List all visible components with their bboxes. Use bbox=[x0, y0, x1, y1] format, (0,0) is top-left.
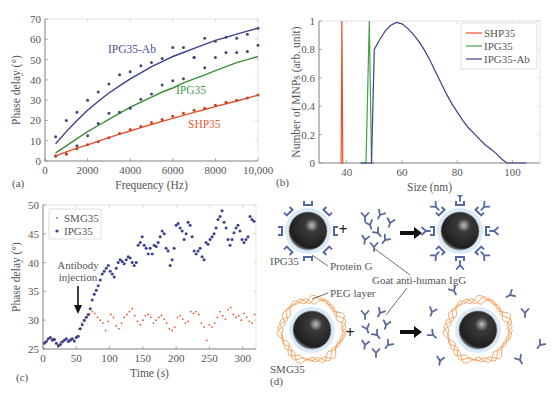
y-tick-label: 0.6 bbox=[301, 72, 315, 84]
antibody-icon bbox=[362, 213, 369, 221]
data-point bbox=[224, 318, 226, 320]
data-point bbox=[241, 238, 244, 241]
data-point bbox=[163, 318, 165, 320]
antibody-icon bbox=[436, 356, 444, 365]
data-point bbox=[149, 247, 152, 250]
x-tick-label: 0 bbox=[42, 164, 48, 176]
data-point bbox=[246, 97, 249, 100]
data-point bbox=[94, 312, 96, 314]
data-point bbox=[193, 109, 196, 112]
antibody-icon bbox=[535, 340, 546, 351]
data-point bbox=[115, 325, 117, 327]
legend: SHP35IPG35IPG35-Ab bbox=[461, 23, 537, 69]
data-point bbox=[225, 227, 228, 230]
data-point bbox=[223, 221, 226, 224]
data-point bbox=[141, 235, 144, 238]
data-point bbox=[107, 264, 110, 267]
panel-b-size-distribution-chart: 40608010000.20.40.60.81Size (nm)Number o… bbox=[270, 0, 554, 200]
data-point bbox=[171, 79, 174, 82]
data-point bbox=[219, 215, 222, 218]
data-point bbox=[159, 235, 162, 238]
data-point bbox=[115, 267, 118, 270]
protein-g-icon bbox=[284, 247, 292, 255]
data-point bbox=[81, 323, 84, 326]
data-point bbox=[123, 316, 125, 318]
data-point bbox=[135, 261, 138, 264]
data-point bbox=[103, 270, 106, 273]
data-point bbox=[201, 255, 204, 258]
data-point bbox=[193, 250, 196, 253]
data-point bbox=[89, 307, 92, 310]
data-point bbox=[213, 232, 216, 235]
data-point bbox=[187, 221, 190, 224]
data-point bbox=[111, 273, 114, 276]
data-point bbox=[233, 231, 236, 234]
data-point bbox=[79, 327, 82, 330]
antibody-icon bbox=[365, 220, 374, 230]
bound-antibody-icon bbox=[479, 202, 490, 213]
antibody-icon bbox=[386, 218, 395, 228]
data-point bbox=[246, 50, 249, 53]
data-point bbox=[49, 336, 52, 339]
antibody-icon bbox=[373, 349, 380, 357]
data-point bbox=[145, 315, 147, 317]
data-point bbox=[206, 339, 208, 341]
data-point bbox=[203, 258, 206, 261]
data-point bbox=[118, 328, 120, 330]
x-tick-label: 60 bbox=[396, 166, 408, 178]
panel-c-time-chart: 050100150200250300253035404550Time (s)Ph… bbox=[0, 195, 280, 401]
protein-g-icon bbox=[324, 207, 332, 215]
data-point bbox=[139, 241, 142, 244]
data-point bbox=[247, 235, 250, 238]
data-point bbox=[181, 229, 184, 232]
data-point bbox=[137, 244, 140, 247]
data-point bbox=[126, 314, 128, 316]
panel-label: (b) bbox=[276, 176, 289, 189]
label-smg35: SMG35 bbox=[270, 363, 305, 375]
data-point bbox=[65, 337, 68, 340]
y-tick-label: 0 bbox=[36, 155, 42, 167]
data-point bbox=[139, 98, 142, 101]
data-point bbox=[85, 316, 88, 319]
data-point bbox=[113, 276, 116, 279]
data-point bbox=[123, 262, 126, 265]
data-point bbox=[231, 238, 234, 241]
data-point bbox=[189, 224, 192, 227]
data-point bbox=[131, 308, 133, 310]
smg35-particle bbox=[289, 307, 335, 353]
panel-label: (c) bbox=[16, 371, 29, 384]
legend: SMG35IPG35 bbox=[49, 209, 101, 239]
data-point bbox=[143, 244, 146, 247]
data-point bbox=[102, 322, 104, 324]
data-point bbox=[165, 247, 168, 250]
data-point bbox=[214, 104, 217, 107]
y-tick-label: 45 bbox=[28, 228, 40, 240]
data-point bbox=[197, 250, 200, 253]
x-tick-label: 0 bbox=[40, 352, 46, 364]
antibody-icon bbox=[361, 235, 369, 244]
data-point bbox=[107, 136, 110, 139]
panel-a-frequency-chart: 0200040006000800010,000010203040506070Fr… bbox=[0, 0, 280, 200]
data-point bbox=[121, 322, 123, 324]
data-point bbox=[185, 322, 187, 324]
data-point bbox=[177, 316, 179, 318]
smg35-particle-result bbox=[455, 307, 501, 353]
bound-antibody-icon bbox=[457, 195, 464, 201]
label-shp35: SHP35 bbox=[188, 118, 221, 130]
x-tick-label: 4000 bbox=[119, 164, 142, 176]
data-point bbox=[86, 143, 89, 146]
label-peg-layer: PEG layer bbox=[330, 287, 376, 299]
legend-label: IPG35 bbox=[484, 40, 513, 52]
data-point bbox=[209, 238, 212, 241]
y-tick-label: 35 bbox=[28, 285, 40, 297]
data-point bbox=[187, 320, 189, 322]
data-point bbox=[105, 330, 107, 332]
data-point bbox=[185, 232, 188, 235]
data-point bbox=[161, 118, 164, 121]
legend-label: IPG35-Ab bbox=[484, 53, 530, 65]
data-point bbox=[182, 77, 185, 80]
plus-sign: + bbox=[345, 324, 354, 341]
data-point bbox=[182, 46, 185, 49]
series-ipg35-ab bbox=[54, 27, 259, 144]
data-point bbox=[99, 278, 102, 281]
